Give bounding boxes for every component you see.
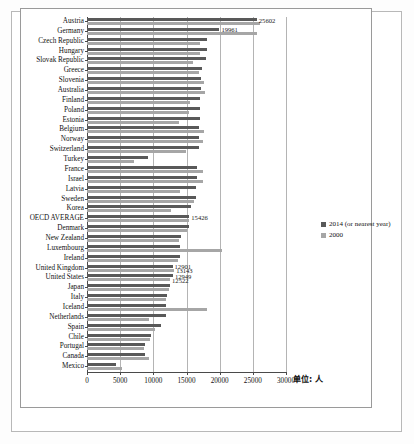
bar-2000 [87, 308, 207, 311]
category-label: Finland [62, 96, 84, 104]
chart-row: Korea [87, 205, 286, 215]
bar-2000 [87, 101, 190, 104]
bar-2000 [87, 328, 155, 331]
category-label: Netherlands [49, 313, 84, 321]
bar-2014 [87, 314, 166, 317]
bar-2014 [87, 265, 173, 268]
bar-2014 [87, 97, 200, 100]
x-tick-label: 20000 [211, 377, 229, 385]
chart-row: Italy [87, 294, 286, 304]
chart-row: Germany [87, 28, 286, 38]
legend-item[interactable]: 2014 (or nearest year) [321, 220, 414, 228]
category-label: OECD AVERAGE [30, 214, 84, 222]
chart-row: Canada [87, 353, 286, 363]
bar-2014 [87, 196, 196, 199]
bar-2014 [87, 294, 167, 297]
legend-swatch-icon [321, 222, 326, 227]
x-tick-label: 5000 [113, 377, 127, 385]
category-label: Canada [62, 352, 84, 360]
category-label: Czech Republic [38, 37, 84, 45]
category-label: France [64, 165, 84, 173]
legend-label: 2014 (or nearest year) [329, 220, 391, 228]
category-label: Latvia [66, 185, 84, 193]
chart-row: Switzerland [87, 146, 286, 156]
chart-row: Poland [87, 107, 286, 117]
bar-2000 [87, 170, 203, 173]
category-label: Norway [61, 135, 84, 143]
chart-row: Estonia [87, 117, 286, 127]
bar-2000 [87, 239, 179, 242]
category-label: United Kingdom [35, 264, 84, 272]
bar-2014 [87, 363, 116, 366]
bar-2014 [87, 186, 196, 189]
category-label: Slovenia [59, 76, 84, 84]
bar-2000 [87, 111, 189, 114]
chart-row: Luxembourg [87, 245, 286, 255]
bar-2014 [87, 77, 201, 80]
bar-2000 [87, 318, 149, 321]
chart-row: Israel [87, 176, 286, 186]
chart-row: Spain [87, 324, 286, 334]
bar-2014 [87, 146, 199, 149]
chart-row: Belgium [87, 126, 286, 136]
bar-2000 [87, 298, 166, 301]
x-tick [187, 372, 188, 375]
legend-item[interactable]: 2000 [321, 231, 414, 239]
bar-2000 [87, 42, 200, 45]
bar-2000 [87, 130, 204, 133]
x-tick-label: 15000 [178, 377, 196, 385]
chart-row: Australia [87, 87, 286, 97]
bar-2000 [87, 190, 180, 193]
bar-2000 [87, 200, 194, 203]
bar-2014 [87, 225, 189, 228]
bar-2014 [87, 324, 161, 327]
category-label: Slovak Republic [36, 56, 84, 64]
bar-2000 [87, 150, 186, 153]
category-label: Ireland [64, 254, 84, 262]
x-tick [120, 372, 121, 375]
bar-2014 [87, 87, 201, 90]
bar-2014 [87, 235, 181, 238]
category-label: Israel [68, 175, 84, 183]
category-label: Switzerland [50, 145, 84, 153]
bar-2014 [87, 156, 148, 159]
bar-2000 [87, 209, 171, 212]
bar-2014 [87, 176, 197, 179]
chart-row: Sweden [87, 196, 286, 206]
bar-2014 [87, 126, 199, 129]
bar-2014 [87, 166, 197, 169]
bar-2000 [87, 357, 149, 360]
x-tick-label: 10000 [144, 377, 162, 385]
bar-2014 [87, 255, 180, 258]
bar-2000 [87, 229, 187, 232]
x-tick-label: 25000 [244, 377, 262, 385]
category-label: Australia [58, 86, 84, 94]
category-label: Mexico [62, 362, 84, 370]
bar-2000 [87, 338, 150, 341]
bar-2014 [87, 245, 180, 248]
bar-2000 [87, 347, 144, 350]
legend-label: 2000 [329, 231, 343, 239]
category-label: Italy [71, 293, 84, 301]
bar-2000 [87, 259, 178, 262]
chart-row: Iceland [87, 304, 286, 314]
bar-2014 [87, 215, 189, 218]
chart-row: Denmark [87, 225, 286, 235]
bar-2014 [87, 38, 207, 41]
bar-2014 [87, 107, 200, 110]
x-tick [253, 372, 254, 375]
chart-row: Finland [87, 97, 286, 107]
bar-2014 [87, 343, 145, 346]
data-label: 19961 [221, 26, 237, 33]
x-tick [220, 372, 221, 375]
category-label: Chile [68, 333, 84, 341]
category-label: Iceland [63, 303, 84, 311]
chart-row: Latvia [87, 186, 286, 196]
chart-row: Slovak Republic [87, 57, 286, 67]
bar-2014 [87, 18, 257, 21]
chart-row: Portugal [87, 343, 286, 353]
bar-2014 [87, 334, 151, 337]
chart-row: New Zealand [87, 235, 286, 245]
gridline-30000 [286, 17, 287, 372]
category-label: Poland [64, 106, 84, 114]
